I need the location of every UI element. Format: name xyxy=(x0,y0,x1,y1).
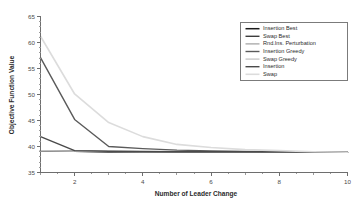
x-axis-title: Number of Leader Change xyxy=(155,190,238,198)
legend: Insertion BestSwap BestRnd.Ins. Perturba… xyxy=(241,23,348,81)
y-tick-label: 35 xyxy=(28,169,35,176)
y-tick-label: 40 xyxy=(28,143,35,150)
line-chart: 35404550556065246810 Objective Function … xyxy=(0,0,362,206)
y-tick-label: 50 xyxy=(28,91,35,98)
legend-label-3: Insertion Greedy xyxy=(263,48,305,54)
y-tick-label: 55 xyxy=(28,65,35,72)
x-tick-label: 8 xyxy=(278,178,282,185)
legend-label-1: Swap Best xyxy=(263,33,290,39)
y-tick-label: 65 xyxy=(28,13,35,20)
legend-label-6: Swap xyxy=(263,71,277,77)
y-tick-label: 60 xyxy=(28,39,35,46)
y-tick-label: 45 xyxy=(28,117,35,124)
legend-label-2: Rnd.Ins. Perturbation xyxy=(263,40,316,46)
y-axis-title: Objective Function Value xyxy=(8,55,16,134)
x-tick-label: 6 xyxy=(209,178,213,185)
x-tick-label: 10 xyxy=(344,178,351,185)
chart-container: 35404550556065246810 Objective Function … xyxy=(0,0,362,206)
x-tick-label: 2 xyxy=(73,178,77,185)
x-tick-label: 4 xyxy=(141,178,145,185)
legend-label-4: Swap Greedy xyxy=(263,56,297,62)
legend-label-0: Insertion Best xyxy=(263,25,298,31)
legend-label-5: Insertion xyxy=(263,63,284,69)
